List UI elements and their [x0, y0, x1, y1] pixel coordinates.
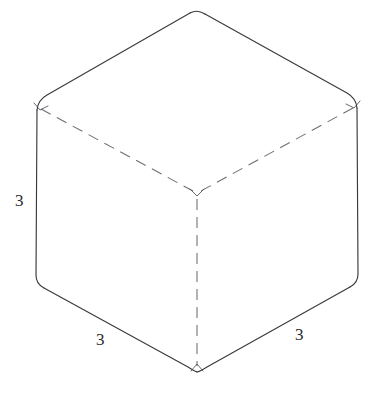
visible-edge-top-to-top-left: [190, 11, 205, 14]
cube-figure: 3 3 3: [0, 0, 379, 398]
hidden-edge-top-left-to-back-center: [41, 109, 193, 191]
visible-edge-right-vertical: [350, 108, 358, 287]
visible-edge-bottom-left: [44, 288, 197, 372]
dimension-label-front-bottom-right-edge: 3: [295, 326, 304, 343]
visible-edge-left-vertical: [36, 110, 44, 288]
hidden-edges-group: [41, 108, 353, 366]
visible-edge-top-left-slope: [37, 13, 190, 110]
top-right-vertex-tick: [346, 101, 360, 108]
hidden-edge-top-right-to-back-center: [201, 108, 353, 191]
visible-edge-top-right-slope: [205, 14, 357, 108]
visible-edge-bottom-right: [197, 287, 350, 372]
dimension-label-left-edge: 3: [15, 192, 24, 209]
dimension-label-front-bottom-left-edge: 3: [96, 331, 105, 348]
top-left-vertex-tick: [34, 103, 48, 110]
cube-drawing: [0, 0, 379, 398]
